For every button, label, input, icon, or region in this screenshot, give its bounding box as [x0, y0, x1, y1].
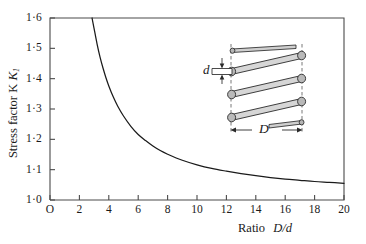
y-tick-label: 1·5 — [26, 43, 46, 55]
y-tick-label: 1·1 — [26, 164, 46, 176]
y-tick-label: 1·4 — [26, 73, 46, 85]
plot-frame — [50, 18, 344, 200]
y-axis-title-symbol: K — [5, 72, 20, 81]
wire-diameter-label: d — [203, 62, 210, 78]
y-axis-title: Stress factor K K1 — [5, 33, 21, 193]
figure-root: 1·01·11·21·31·41·51·6 O2468101214161820 … — [0, 0, 366, 244]
coil-diameter-label: D — [259, 121, 269, 137]
x-axis-title: Ratio D/d — [238, 221, 292, 236]
y-tick-label: 1·0 — [26, 194, 46, 206]
x-axis-title-symbol: D/d — [273, 221, 292, 235]
y-axis-title-subscript: 1 — [12, 68, 21, 72]
x-axis-tick-marks — [50, 195, 344, 200]
y-axis-title-text: Stress factor K — [6, 84, 20, 158]
data-series-wahl-factor — [92, 18, 344, 183]
x-axis-title-text: Ratio — [238, 221, 265, 235]
y-axis-tick-marks — [50, 18, 55, 200]
y-tick-label: 1·3 — [26, 103, 46, 115]
chart-canvas — [0, 0, 366, 244]
y-tick-label: 1·6 — [26, 12, 46, 24]
y-tick-label: 1·2 — [26, 134, 46, 146]
